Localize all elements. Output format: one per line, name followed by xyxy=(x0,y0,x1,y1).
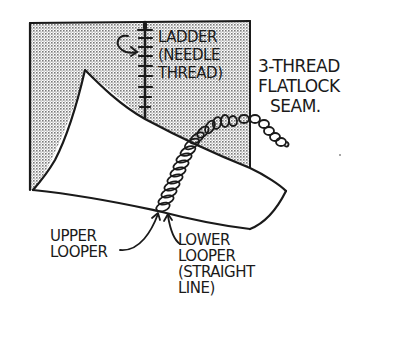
label-line: LINE) xyxy=(178,280,255,296)
label-line: (NEEDLE xyxy=(158,46,223,64)
label-line: LOOPER xyxy=(178,248,255,264)
ladder-needle-thread-label: LADDER (NEEDLE THREAD) xyxy=(158,28,223,82)
lower-looper-label: LOWER LOOPER (STRAIGHT LINE) xyxy=(178,232,255,296)
upper-looper-label: UPPER LOOPER xyxy=(50,228,107,260)
title-line: SEAM. xyxy=(258,96,340,116)
upper-looper-pointer-arrow-icon xyxy=(120,213,160,250)
stray-mark xyxy=(339,154,341,156)
label-line: LOOPER xyxy=(50,244,107,260)
label-line: (STRAIGHT xyxy=(178,264,255,280)
title-line: FLATLOCK xyxy=(258,76,340,96)
diagram-title: 3-THREAD FLATLOCK SEAM. xyxy=(258,56,340,116)
title-line: 3-THREAD xyxy=(258,56,340,76)
label-line: LADDER xyxy=(158,28,223,46)
label-line: THREAD) xyxy=(158,64,223,82)
label-line: LOWER xyxy=(178,232,255,248)
label-line: UPPER xyxy=(50,228,107,244)
